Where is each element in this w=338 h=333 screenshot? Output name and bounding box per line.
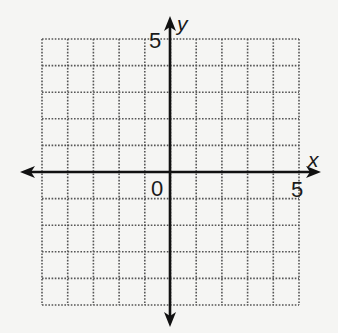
x-tick-label: 5 [291,177,303,202]
origin-label: 0 [151,176,163,201]
y-axis-label: y [175,12,189,35]
coordinate-grid-svg: 5 y 0 5 x [0,0,338,333]
coordinate-plane: 5 y 0 5 x [0,0,338,333]
x-axis-label: x [307,148,320,171]
y-tick-label: 5 [149,28,161,53]
